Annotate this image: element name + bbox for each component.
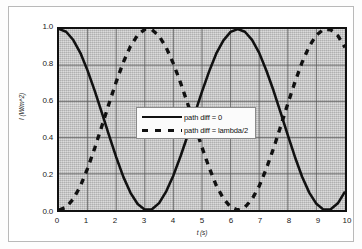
legend: path diff = 0 path diff = lambda/2 xyxy=(136,107,256,139)
y-tick-label: 1.0 xyxy=(27,23,53,31)
y-axis-title-text: I (W/m^2) xyxy=(18,93,25,120)
y-axis-ticks: 1.0 0.8 0.6 0.4 0.2 0.0 xyxy=(23,27,53,212)
legend-item-dashed: path diff = lambda/2 xyxy=(137,124,255,137)
y-tick-label: 0.4 xyxy=(27,134,53,142)
legend-label: path diff = lambda/2 xyxy=(184,126,248,135)
x-tick-label: 0 xyxy=(46,216,68,225)
scanned-page: 1.0 0.8 0.6 0.4 0.2 0.0 I (W/m^2) path d… xyxy=(0,0,362,249)
x-axis-title-text: t (s) xyxy=(197,229,208,236)
x-tick-label: 7 xyxy=(249,216,271,225)
y-tick-label: 0.6 xyxy=(27,97,53,105)
legend-swatch-solid-line xyxy=(140,112,184,123)
x-tick-label: 10 xyxy=(336,216,358,225)
x-axis-title: t (s) xyxy=(57,229,347,236)
x-tick-label: 1 xyxy=(75,216,97,225)
legend-swatch-dashed-line xyxy=(140,125,184,136)
plot-area: path diff = 0 path diff = lambda/2 xyxy=(57,27,347,212)
x-tick-label: 2 xyxy=(104,216,126,225)
x-tick-label: 5 xyxy=(191,216,213,225)
x-axis-ticks: 0 1 2 3 4 5 6 7 8 9 10 xyxy=(57,216,347,228)
y-tick-label: 0.0 xyxy=(27,208,53,216)
x-tick-label: 6 xyxy=(220,216,242,225)
legend-label: path diff = 0 xyxy=(184,113,222,122)
y-tick-label: 0.8 xyxy=(27,60,53,68)
y-tick-label: 0.2 xyxy=(27,171,53,179)
y-axis-title: I (W/m^2) xyxy=(18,78,25,136)
x-tick-label: 8 xyxy=(278,216,300,225)
x-tick-label: 9 xyxy=(307,216,329,225)
legend-item-solid: path diff = 0 xyxy=(137,111,255,124)
x-tick-label: 3 xyxy=(133,216,155,225)
chart-frame: 1.0 0.8 0.6 0.4 0.2 0.0 I (W/m^2) path d… xyxy=(8,6,354,242)
x-tick-label: 4 xyxy=(162,216,184,225)
